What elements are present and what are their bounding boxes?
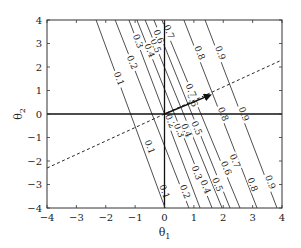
contour-labels: 0.10.10.10.20.20.20.30.30.30.40.40.40.50… [112, 22, 278, 201]
x-tick-label: 1 [191, 212, 197, 223]
x-tick-label: −4 [40, 212, 55, 223]
y-tick-label: 1 [36, 85, 42, 96]
plot-svg: 0.10.10.10.20.20.20.30.30.30.40.40.40.50… [0, 0, 301, 248]
y-tick-label: 3 [36, 38, 42, 49]
contour-chart: 0.10.10.10.20.20.20.30.30.30.40.40.40.50… [0, 0, 301, 248]
x-tick-label: −2 [98, 212, 113, 223]
x-tick-label: 4 [279, 212, 285, 223]
y-tick-label: −3 [27, 179, 42, 190]
y-tick-label: 0 [36, 109, 42, 120]
y-tick-label: 4 [36, 15, 42, 26]
y-tick-label: −1 [27, 132, 42, 143]
x-tick-label: 0 [161, 212, 167, 223]
y-tick-label: −2 [27, 156, 42, 167]
y-axis-title: θ2 [12, 108, 27, 120]
x-tick-label: −1 [128, 212, 143, 223]
x-axis-title: θ1 [159, 226, 171, 241]
y-tick-label: −4 [27, 203, 42, 214]
x-tick-label: −3 [69, 212, 84, 223]
y-tick-label: 2 [36, 62, 42, 73]
x-tick-label: 3 [249, 212, 255, 223]
x-tick-label: 2 [220, 212, 226, 223]
